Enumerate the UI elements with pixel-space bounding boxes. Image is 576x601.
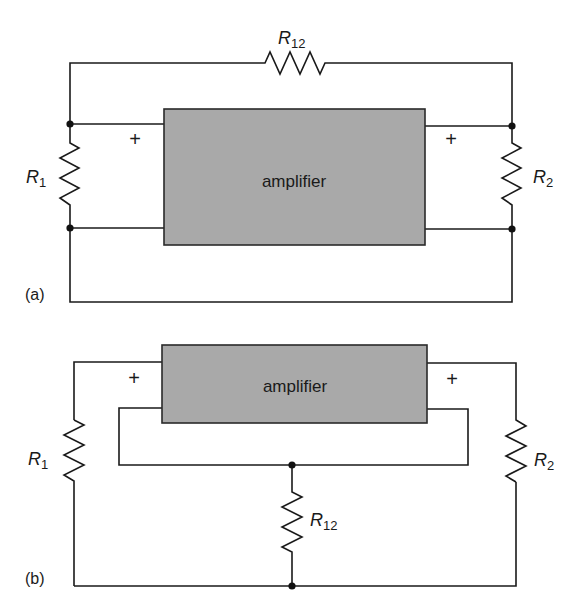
node-a-out-bottom xyxy=(508,225,515,232)
node-a-in-top xyxy=(66,120,73,127)
polarity-b-input: + xyxy=(128,367,140,389)
circuit-figure: amplifier + + R12 R1 R2 (a) xyxy=(0,0,576,601)
node-a-out-top xyxy=(508,122,515,129)
label-b-r12: R12 xyxy=(310,510,337,533)
panel-label-a: (a) xyxy=(25,286,45,303)
resistor-b-r1 xyxy=(64,420,84,586)
node-b-bottom xyxy=(288,582,295,589)
node-b-common xyxy=(288,461,295,468)
panel-b: amplifier + + R1 R2 R12 (b) xyxy=(25,345,554,590)
resistor-a-r2 xyxy=(502,126,521,229)
resistor-b-r12 xyxy=(282,465,302,586)
wire-b-in-top xyxy=(74,362,162,420)
amplifier-label-b: amplifier xyxy=(263,377,328,396)
node-a-in-bottom xyxy=(66,224,73,231)
polarity-a-output: + xyxy=(445,128,457,150)
panel-label-b: (b) xyxy=(25,570,45,587)
label-b-r2: R2 xyxy=(534,450,554,473)
polarity-a-input: + xyxy=(129,128,141,150)
label-a-r12: R12 xyxy=(278,28,305,51)
panel-a: amplifier + + R12 R1 R2 (a) xyxy=(25,28,553,303)
label-b-r1: R1 xyxy=(28,449,48,472)
resistor-a-r1 xyxy=(60,124,79,228)
label-a-r1: R1 xyxy=(26,167,46,190)
label-a-r2: R2 xyxy=(533,167,553,190)
amplifier-label-a: amplifier xyxy=(262,172,327,191)
resistor-b-r2 xyxy=(427,363,526,482)
polarity-b-output: + xyxy=(446,368,458,390)
